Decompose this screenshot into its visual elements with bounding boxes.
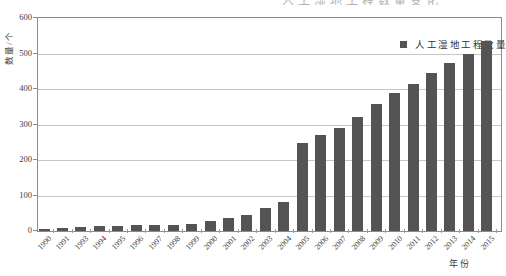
clipped-page-text: 人工湿地工程数量变化: [282, 0, 492, 5]
bar-2009: [371, 104, 382, 231]
x-tick-mark: [238, 229, 239, 233]
bar-2002: [241, 215, 252, 231]
bar-1990: [39, 229, 50, 231]
bar-1993: [75, 227, 86, 231]
bar-2010: [389, 93, 400, 231]
bar-1998: [168, 225, 179, 231]
y-tick-mark: [33, 17, 37, 18]
x-tick-mark: [72, 229, 73, 233]
x-tick-mark: [275, 229, 276, 233]
legend-marker-square-icon: [400, 41, 407, 48]
y-tick-mark: [33, 195, 37, 196]
x-tick-mark: [459, 229, 460, 233]
y-tick-label-600: 600: [0, 12, 32, 22]
x-tick-mark: [441, 229, 442, 233]
x-tick-mark: [385, 229, 386, 233]
bar-2007: [334, 128, 345, 231]
y-tick-mark: [33, 53, 37, 54]
x-tick-mark: [422, 229, 423, 233]
x-tick-mark: [496, 229, 497, 233]
bar-2015: [481, 41, 492, 231]
bar-2006: [315, 135, 326, 231]
y-tick-label-500: 500: [0, 48, 32, 58]
x-tick-mark: [145, 229, 146, 233]
y-tick-mark: [33, 124, 37, 125]
x-tick-mark: [367, 229, 368, 233]
x-tick-mark: [330, 229, 331, 233]
bar-1995: [112, 226, 123, 231]
gridline-500: [38, 54, 501, 55]
x-tick-mark: [348, 229, 349, 233]
bar-1994: [94, 226, 105, 231]
x-tick-mark: [256, 229, 257, 233]
y-tick-label-200: 200: [0, 154, 32, 164]
bar-1997: [149, 225, 160, 231]
plot-area: 人工湿地工程数量: [37, 17, 502, 232]
bar-2008: [352, 117, 363, 231]
bar-1999: [186, 224, 197, 231]
bar-2003: [260, 208, 271, 231]
x-tick-mark: [293, 229, 294, 233]
y-tick-label-100: 100: [0, 190, 32, 200]
x-tick-mark: [109, 229, 110, 233]
legend-label: 人工湿地工程数量: [415, 37, 506, 51]
bar-2000: [205, 221, 216, 231]
clipped-page-text-fragment: 人工湿地工程数量变化: [282, 0, 492, 5]
x-tick-mark: [312, 229, 313, 233]
bar-1991: [57, 228, 68, 231]
bar-2005: [297, 143, 308, 231]
y-tick-mark: [33, 88, 37, 89]
x-tick-mark: [219, 229, 220, 233]
x-tick-mark: [127, 229, 128, 233]
x-tick-mark: [404, 229, 405, 233]
bar-2014: [463, 54, 474, 232]
y-tick-mark: [33, 230, 37, 231]
x-tick-mark: [53, 229, 54, 233]
bar-2012: [426, 73, 437, 231]
y-tick-mark: [33, 159, 37, 160]
x-tick-mark: [164, 229, 165, 233]
bar-2011: [408, 84, 419, 231]
bar-2001: [223, 218, 234, 231]
bar-1996: [131, 225, 142, 231]
x-tick-mark: [90, 229, 91, 233]
bar-2013: [444, 63, 455, 231]
x-tick-mark: [478, 229, 479, 233]
chart: 人工湿地工程数量变化 数量/个 人工湿地工程数量 年份 010020030040…: [0, 0, 506, 276]
x-tick-mark: [201, 229, 202, 233]
x-tick-mark: [182, 229, 183, 233]
y-tick-label-300: 300: [0, 119, 32, 129]
y-tick-label-0: 0: [0, 225, 32, 235]
y-tick-label-400: 400: [0, 83, 32, 93]
bar-2004: [278, 202, 289, 231]
